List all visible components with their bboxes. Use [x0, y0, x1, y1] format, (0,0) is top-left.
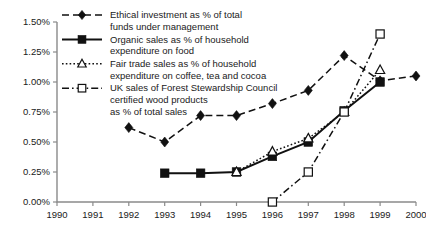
legend-item-organic-sales[interactable]: Organic sales as % of householdexpenditu… — [62, 34, 249, 57]
legend-item-fsc-wood-products[interactable]: UK sales of Forest Stewardship Councilce… — [62, 82, 277, 116]
marker-filled-square — [160, 169, 169, 178]
marker-filled-diamond — [78, 10, 85, 19]
marker-filled-diamond — [268, 99, 276, 109]
legend-label: Organic sales as % of household — [110, 34, 249, 45]
marker-filled-diamond — [233, 111, 241, 121]
marker-filled-diamond — [412, 71, 420, 81]
marker-open-square — [304, 168, 312, 176]
x-tick-label: 1999 — [370, 209, 391, 220]
x-tick-label: 1990 — [46, 209, 67, 220]
line-chart: 0.00%0.25%0.50%0.75%1.00%1.25%1.50%19901… — [0, 0, 426, 229]
marker-filled-square — [78, 35, 86, 43]
legend-item-fair-trade-sales[interactable]: Fair trade sales as % of householdexpend… — [62, 58, 267, 81]
marker-open-triangle — [376, 65, 385, 74]
x-axis-ticks: 1990199119921993199419951996199719981999… — [46, 202, 426, 220]
x-tick-label: 1991 — [82, 209, 103, 220]
marker-open-square — [78, 84, 86, 92]
marker-filled-diamond — [161, 137, 169, 147]
x-tick-label: 1995 — [226, 209, 247, 220]
marker-open-square — [340, 108, 348, 116]
x-tick-label: 1998 — [334, 209, 355, 220]
marker-open-square — [376, 30, 384, 38]
legend-label: Fair trade sales as % of household — [110, 58, 256, 69]
marker-filled-diamond — [125, 123, 133, 133]
x-tick-label: 2000 — [405, 209, 426, 220]
marker-filled-square — [196, 169, 205, 178]
y-tick-label: 0.75% — [23, 106, 50, 117]
x-tick-label: 1994 — [190, 209, 211, 220]
chart-container: 0.00%0.25%0.50%0.75%1.00%1.25%1.50%19901… — [0, 0, 426, 229]
legend-label: funds under management — [110, 21, 219, 32]
y-axis-ticks: 0.00%0.25%0.50%0.75%1.00%1.25%1.50% — [23, 16, 57, 207]
y-tick-label: 0.00% — [23, 196, 50, 207]
x-tick-label: 1992 — [118, 209, 139, 220]
y-tick-label: 1.25% — [23, 46, 50, 57]
legend: Ethical investment as % of totalfunds un… — [62, 9, 277, 116]
y-tick-label: 1.00% — [23, 76, 50, 87]
legend-label: UK sales of Forest Stewardship Council — [110, 82, 277, 93]
legend-label: expenditure on coffee, tea and cocoa — [110, 70, 267, 81]
x-tick-label: 1993 — [154, 209, 175, 220]
legend-label: Ethical investment as % of total — [110, 9, 242, 20]
x-tick-label: 1996 — [262, 209, 283, 220]
series-fsc-wood-products — [268, 30, 384, 206]
y-tick-label: 0.25% — [23, 166, 50, 177]
marker-filled-square — [376, 78, 385, 87]
series-line — [272, 34, 380, 202]
y-tick-label: 1.50% — [23, 16, 50, 27]
marker-filled-diamond — [197, 111, 205, 121]
legend-label: as % of total sales — [110, 106, 187, 117]
legend-item-ethical-investment[interactable]: Ethical investment as % of totalfunds un… — [62, 9, 242, 32]
legend-label: certified wood products — [110, 94, 208, 105]
marker-filled-diamond — [340, 51, 348, 61]
marker-open-triangle — [268, 147, 277, 156]
x-tick-label: 1997 — [298, 209, 319, 220]
legend-label: expenditure on food — [110, 45, 194, 56]
y-tick-label: 0.50% — [23, 136, 50, 147]
marker-open-square — [268, 198, 276, 206]
